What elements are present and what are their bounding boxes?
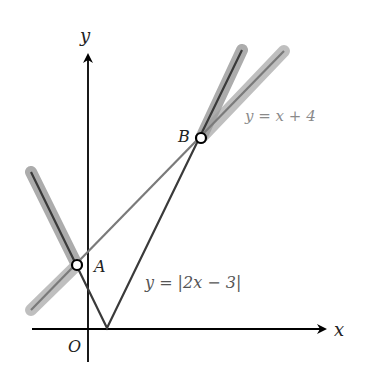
point-a-marker [72, 260, 82, 270]
origin-label: O [68, 337, 81, 356]
linear-equation-label: y = x + 4 [244, 107, 316, 125]
y-axis-label: y [79, 25, 91, 46]
abs-equation-label: y = |2x − 3| [144, 273, 241, 292]
x-axis-label: x [334, 319, 344, 340]
intersection-points [72, 133, 206, 270]
curve-linear [31, 51, 284, 310]
axes [32, 55, 325, 362]
labels: y x O A B y = x + 4 y = |2x − 3| [68, 25, 344, 356]
coordinate-diagram: y x O A B y = x + 4 y = |2x − 3| [0, 0, 365, 380]
point-b-label: B [177, 127, 190, 146]
linear-graph [31, 51, 284, 310]
point-b-marker [196, 133, 206, 143]
point-a-label: A [92, 257, 106, 276]
